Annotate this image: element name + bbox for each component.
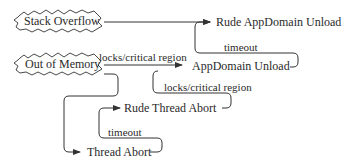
edge-oom-to-thread-abort (64, 74, 118, 152)
state-appdomain-unload: AppDomain Unload (192, 60, 290, 72)
state-thread-abort: Thread Abort (87, 146, 151, 158)
state-rude-thread-abort: Rude Thread Abort (124, 102, 216, 114)
state-rude-appdomain-unload: Rude AppDomain Unload (216, 16, 341, 28)
source-stack-overflow: Stack Overflow (24, 15, 100, 27)
edge-label-oom-locks: locks/critical region (99, 52, 187, 63)
edge-label-thread-timeout: timeout (108, 127, 142, 138)
edge-label-appdomain-timeout: timeout (224, 42, 258, 53)
source-out-of-memory: Out of Memory (25, 58, 100, 70)
edge-label-rude-thread-locks: locks/critical region (164, 82, 252, 93)
